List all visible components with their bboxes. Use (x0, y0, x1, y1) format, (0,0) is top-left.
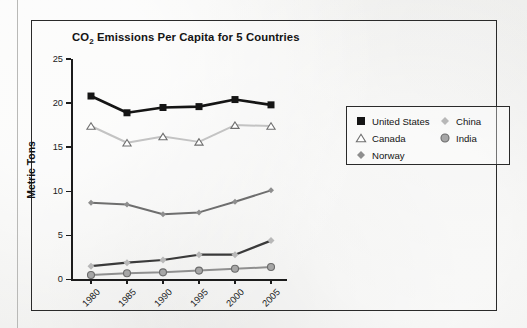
y-axis-title: Metric Tons (26, 141, 37, 199)
legend-item-label: Norway (372, 150, 405, 161)
y-tick-label: 5 (58, 230, 63, 240)
chart-legend: United StatesCanadaNorway ChinaIndia (346, 106, 510, 165)
series-norway (88, 187, 274, 217)
data-point (124, 259, 131, 266)
legend-marker-diamond-icon (438, 115, 451, 127)
series-line (91, 125, 271, 143)
data-point (88, 200, 94, 206)
page-margin-rule (17, 0, 18, 328)
y-tick-label: 20 (53, 98, 63, 108)
data-point (88, 271, 95, 278)
data-point (196, 267, 203, 274)
series-line (91, 96, 271, 113)
legend-marker-square-icon (354, 115, 367, 127)
x-tick-label: 1985 (116, 287, 138, 309)
data-point (268, 237, 275, 244)
chart-title-main: CO (72, 31, 89, 43)
x-tick-label: 1980 (80, 287, 102, 309)
data-point (268, 101, 275, 108)
data-point (160, 211, 166, 217)
data-point (124, 270, 131, 277)
y-tick-label: 0 (58, 274, 63, 284)
data-point (88, 263, 95, 270)
legend-marker-triangle-icon (354, 132, 367, 144)
data-point (196, 209, 202, 215)
data-point (196, 251, 203, 258)
series-line (91, 267, 271, 275)
y-tick-label: 10 (53, 186, 63, 196)
y-tick-label: 25 (53, 54, 63, 64)
legend-item-label: India (456, 133, 477, 144)
data-point (160, 269, 167, 276)
series-canada (87, 122, 275, 146)
y-tick-label: 15 (53, 142, 63, 152)
series-china (88, 237, 275, 270)
data-point (160, 104, 167, 111)
legend-marker-circle-icon (438, 132, 451, 144)
legend-item-canada[interactable]: Canada (354, 130, 430, 146)
chart-title-rest: Emissions Per Capita for 5 Countries (94, 31, 300, 43)
x-tick-label: 2005 (260, 287, 282, 309)
x-tick-label: 1995 (188, 287, 210, 309)
data-point (124, 201, 130, 207)
x-tick-label: 1990 (152, 287, 174, 309)
legend-column-left: United StatesCanadaNorway (354, 113, 430, 164)
series-plot (71, 59, 287, 281)
data-point (268, 187, 274, 193)
data-point (196, 103, 203, 110)
data-point (87, 123, 95, 129)
legend-item-label: Canada (372, 133, 406, 144)
data-point (88, 93, 95, 100)
legend-item-united-states[interactable]: United States (354, 113, 430, 129)
series-india (88, 264, 275, 279)
series-line (91, 241, 271, 267)
legend-item-label: China (456, 116, 481, 127)
chart-title: CO2 Emissions Per Capita for 5 Countries (72, 31, 300, 46)
data-point (124, 109, 131, 116)
legend-item-label: United States (372, 116, 430, 127)
legend-marker-diamond-icon (354, 149, 367, 161)
chart-frame: CO2 Emissions Per Capita for 5 Countries… (31, 20, 497, 311)
legend-column-right: ChinaIndia (438, 113, 481, 147)
legend-item-china[interactable]: China (438, 113, 481, 129)
legend-item-norway[interactable]: Norway (354, 147, 430, 163)
data-point (268, 264, 275, 271)
plot-area: Metric Tons 0510152025 19801985199019952… (71, 59, 286, 281)
series-united-states (88, 93, 275, 117)
data-point (232, 265, 239, 272)
x-tick-label: 2000 (224, 287, 246, 309)
data-point (160, 257, 167, 264)
series-line (91, 190, 271, 214)
legend-item-india[interactable]: India (438, 130, 481, 146)
data-point (232, 251, 239, 258)
data-point (232, 96, 239, 103)
data-point (232, 199, 238, 205)
